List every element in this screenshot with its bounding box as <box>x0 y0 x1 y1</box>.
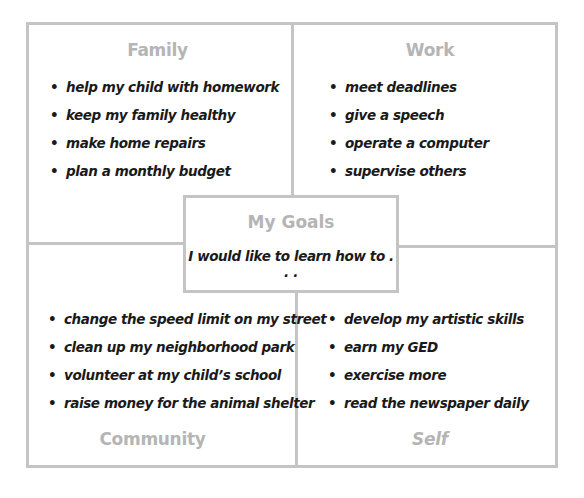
center-title: My Goals <box>186 212 396 232</box>
list-item: •plan a monthly budget <box>50 157 279 185</box>
community-goal-list: •change the speed limit on my street •cl… <box>48 305 326 417</box>
list-item: •earn my GED <box>328 333 529 361</box>
list-item: •clean up my neighborhood park <box>48 333 326 361</box>
bullet-icon: • <box>50 129 58 157</box>
divider-vertical-top <box>291 22 294 196</box>
bullet-icon: • <box>328 305 336 333</box>
family-goal-list: •help my child with homework •keep my fa… <box>50 73 279 185</box>
list-item: •change the speed limit on my street <box>48 305 326 333</box>
list-item: •develop my artistic skills <box>328 305 529 333</box>
self-goal-list: •develop my artistic skills •earn my GED… <box>328 305 529 417</box>
center-subtitle: I would like to learn how to . . . <box>186 248 396 280</box>
list-item: •give a speech <box>329 101 489 129</box>
work-goal-list: •meet deadlines •give a speech •operate … <box>329 73 489 185</box>
bullet-icon: • <box>329 73 337 101</box>
list-item: •exercise more <box>328 361 529 389</box>
list-item: •raise money for the animal shelter <box>48 389 326 417</box>
list-item: •supervise others <box>329 157 489 185</box>
quadrant-title-family: Family <box>100 40 215 60</box>
bullet-icon: • <box>329 157 337 185</box>
bullet-icon: • <box>48 389 56 417</box>
bullet-icon: • <box>329 101 337 129</box>
divider-horizontal-right <box>398 245 558 248</box>
bullet-icon: • <box>48 333 56 361</box>
bullet-icon: • <box>48 361 56 389</box>
list-item: •help my child with homework <box>50 73 279 101</box>
list-item: •make home repairs <box>50 129 279 157</box>
outer-border-bottom <box>26 465 558 468</box>
quadrant-title-community: Community <box>90 429 215 449</box>
list-item: •meet deadlines <box>329 73 489 101</box>
divider-horizontal-left <box>26 242 184 245</box>
bullet-icon: • <box>328 389 336 417</box>
bullet-icon: • <box>48 305 56 333</box>
list-item: •operate a computer <box>329 129 489 157</box>
bullet-icon: • <box>50 157 58 185</box>
bullet-icon: • <box>329 129 337 157</box>
bullet-icon: • <box>328 333 336 361</box>
quadrant-title-self: Self <box>390 429 470 449</box>
outer-border-left <box>26 22 29 468</box>
bullet-icon: • <box>50 101 58 129</box>
list-item: •read the newspaper daily <box>328 389 529 417</box>
quadrant-title-work: Work <box>380 40 480 60</box>
bullet-icon: • <box>328 361 336 389</box>
bullet-icon: • <box>50 73 58 101</box>
list-item: •volunteer at my child’s school <box>48 361 326 389</box>
list-item: •keep my family healthy <box>50 101 279 129</box>
center-goals-box: My Goals I would like to learn how to . … <box>183 195 399 293</box>
